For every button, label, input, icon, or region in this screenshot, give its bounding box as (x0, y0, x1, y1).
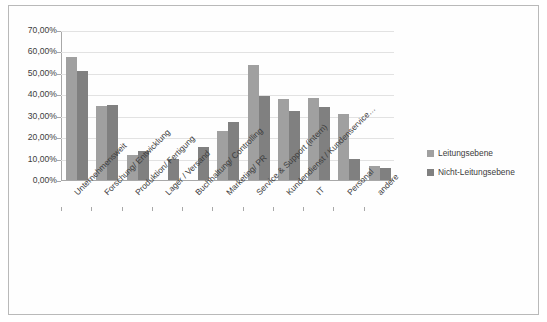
bar (66, 57, 77, 180)
value-axis-tick-label: 70,00% (9, 26, 57, 35)
value-axis-tick-label: 10,00% (9, 155, 57, 164)
value-axis-tick (57, 160, 61, 161)
value-axis-tick (57, 52, 61, 53)
legend-label: Nicht-Leitungsebene (438, 167, 515, 177)
value-axis-tick (57, 181, 61, 182)
legend-item: Leitungsebene (427, 148, 515, 158)
value-axis-tick-label: 60,00% (9, 47, 57, 56)
category-axis-label: IT (314, 185, 326, 197)
category-axis-labels: UnternehmensweitForschung/ EntwicklungPr… (61, 186, 401, 306)
chart-frame: 0,00%10,00%20,00%30,00%40,00%50,00%60,00… (8, 5, 539, 315)
value-axis-tick (57, 95, 61, 96)
legend-label: Leitungsebene (438, 148, 493, 158)
bar (107, 105, 118, 180)
value-axis-tick-label: 30,00% (9, 112, 57, 121)
value-axis-tick-label: 40,00% (9, 90, 57, 99)
value-axis-tick (57, 138, 61, 139)
bar-group (333, 30, 363, 180)
value-axis-tick (57, 117, 61, 118)
bar (77, 71, 88, 180)
value-axis-tick-label: 0,00% (9, 176, 57, 185)
value-axis-labels: 0,00%10,00%20,00%30,00%40,00%50,00%60,00… (9, 31, 57, 181)
legend-swatch-icon (427, 169, 434, 176)
screenshot-root: 0,00%10,00%20,00%30,00%40,00%50,00%60,00… (0, 0, 547, 322)
bar-group (61, 30, 91, 180)
chart-legend: LeitungsebeneNicht-Leitungsebene (427, 148, 515, 186)
value-axis-tick-label: 50,00% (9, 69, 57, 78)
legend-swatch-icon (427, 150, 434, 157)
value-axis-tick (57, 74, 61, 75)
value-axis-tick-label: 20,00% (9, 133, 57, 142)
legend-item: Nicht-Leitungsebene (427, 167, 515, 177)
value-axis-tick (57, 31, 61, 32)
